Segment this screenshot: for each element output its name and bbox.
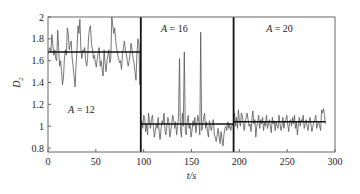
segment-boundaries	[141, 17, 234, 152]
x-tick-label: 150	[184, 156, 199, 167]
x-tick-label: 0	[46, 156, 51, 167]
x-tick-label: 300	[328, 156, 343, 167]
y-axis-label: D2	[11, 77, 25, 89]
x-tick-label: 200	[232, 156, 247, 167]
y-tick-label: 1	[39, 121, 44, 132]
x-tick-label: 100	[136, 156, 151, 167]
series-line-segment-3	[234, 109, 326, 137]
x-tick-label: 250	[280, 156, 295, 167]
y-tick-label: 1.4	[32, 77, 45, 88]
segment-label-2: A = 16	[160, 23, 188, 34]
segment-label-1: A = 12	[67, 104, 95, 115]
series-line-segment-2	[141, 32, 234, 146]
y-tick-label: 1.2	[32, 99, 45, 110]
x-axis-label: t/s	[187, 170, 197, 181]
y-axis-label-sub: 2	[17, 77, 25, 81]
y-tick-label: 0.8	[32, 143, 45, 154]
series-layer	[48, 17, 325, 146]
svg-text:D2: D2	[11, 77, 25, 89]
chart: 050100150200250300 0.811.21.41.61.82 A =…	[0, 0, 360, 194]
y-tick-label: 1.8	[32, 33, 45, 44]
segment-label-3: A = 20	[265, 23, 293, 34]
y-tick-label: 1.6	[32, 55, 45, 66]
y-tick-label: 2	[39, 12, 44, 23]
x-tick-label: 50	[91, 156, 101, 167]
